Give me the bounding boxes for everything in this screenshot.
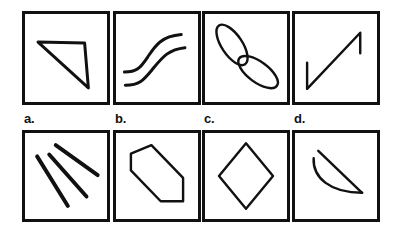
- panel-grid: a. b. c. d.: [0, 0, 402, 232]
- panel-bottom-c[interactable]: [202, 130, 290, 222]
- z-diagonal-with-stubs-icon: [295, 14, 377, 102]
- panel-bottom-a[interactable]: [22, 130, 110, 222]
- crescent-lens-icon: [295, 133, 377, 219]
- figure-root: a. b. c. d.: [0, 0, 402, 232]
- panel-label-d: d.: [294, 112, 305, 125]
- panel-top-3[interactable]: [202, 11, 290, 105]
- right-triangle-icon: [25, 14, 107, 102]
- panel-top-2[interactable]: [113, 11, 201, 105]
- panel-bottom-b[interactable]: [113, 130, 201, 222]
- panel-top-4[interactable]: [292, 11, 380, 105]
- panel-label-b: b.: [115, 112, 126, 125]
- double-s-curve-icon: [116, 14, 198, 102]
- panel-label-a: a.: [24, 112, 34, 125]
- diamond-rhombus-icon: [205, 133, 287, 219]
- panel-label-c: c.: [204, 112, 214, 125]
- panel-bottom-d[interactable]: [292, 130, 380, 222]
- three-diagonal-lines-icon: [25, 133, 107, 219]
- panel-top-1[interactable]: [22, 11, 110, 105]
- double-ellipse-propeller-icon: [205, 14, 287, 102]
- elongated-hexagon-icon: [116, 133, 198, 219]
